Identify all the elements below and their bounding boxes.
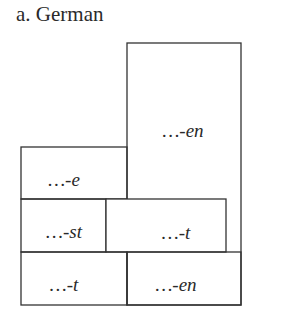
label-top-right-en: …-en bbox=[162, 120, 203, 141]
label-bottom-left-t: …-t bbox=[50, 274, 79, 295]
paradigm-diagram: …-en …-e …-st …-t …-t …-en bbox=[0, 0, 293, 318]
label-e: …-e bbox=[48, 169, 80, 190]
label-middle-t: …-t bbox=[162, 222, 191, 243]
label-bottom-right-en: …-en bbox=[155, 274, 196, 295]
label-st: …-st bbox=[46, 221, 83, 242]
cell-top-right-en bbox=[127, 43, 241, 305]
